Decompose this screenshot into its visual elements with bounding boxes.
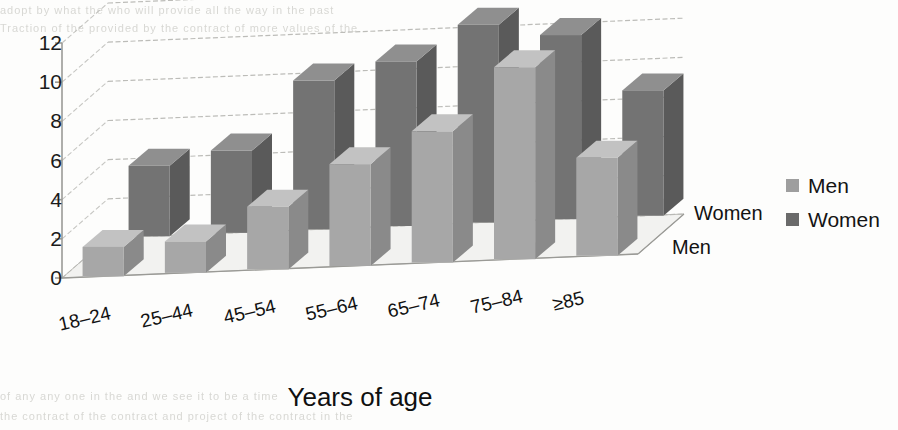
legend-item-women[interactable]: Women [786, 202, 880, 236]
legend-label-men: Men [808, 175, 849, 196]
x-axis-label-7584: 75–84 [468, 286, 524, 319]
x-axis-label-6574: 65–74 [386, 289, 442, 322]
x-axis-label-5564: 55–64 [304, 292, 360, 325]
x-axis-category-labels: 18–2425–4445–5455–6465–7475–84≥85WomenMe… [0, 0, 760, 430]
legend-swatch-icon-men [786, 179, 799, 192]
x-axis-title: Years of age [195, 382, 525, 413]
x-axis-label-1824: 18–24 [57, 303, 113, 336]
x-axis-label-4554: 45–54 [221, 296, 277, 329]
depth-axis-label-men: Men [672, 236, 711, 259]
chart-legend: MenWomen [786, 168, 880, 236]
legend-item-men[interactable]: Men [786, 168, 880, 202]
legend-label-women: Women [808, 209, 880, 230]
x-axis-label-2544: 25–44 [139, 299, 195, 332]
x-axis-label-85: ≥85 [550, 287, 586, 316]
legend-swatch-icon-women [786, 213, 799, 226]
chart-figure: adopt by what the who will provide all t… [0, 0, 898, 430]
depth-axis-label-women: Women [694, 202, 763, 225]
